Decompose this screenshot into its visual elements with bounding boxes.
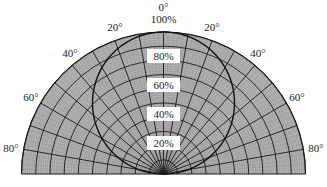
- angle-label-right-60: 60°: [289, 91, 304, 103]
- angle-label-left-60: 60°: [23, 91, 38, 103]
- angle-label-left-40: 40°: [62, 47, 77, 59]
- radial-label-40: 40%: [153, 108, 173, 120]
- angle-label-0: 0°: [159, 1, 169, 13]
- radial-label-60: 60%: [153, 79, 173, 91]
- radial-label-100: 100%: [151, 13, 177, 25]
- polar-chart: 0° 100% 20° 40° 60° 80° 20° 40° 60° 80° …: [0, 0, 327, 187]
- angle-label-right-40: 40°: [250, 47, 265, 59]
- angle-label-left-20: 20°: [107, 21, 122, 33]
- angle-label-right-20: 20°: [204, 21, 219, 33]
- angle-label-right-80: 80°: [308, 142, 323, 154]
- radial-label-80: 80%: [153, 50, 173, 62]
- radial-label-20: 20%: [153, 137, 173, 149]
- angle-label-left-80: 80°: [3, 142, 18, 154]
